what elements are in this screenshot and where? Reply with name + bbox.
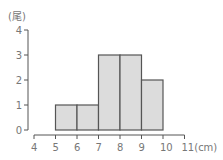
x-tick-label: 5: [53, 142, 59, 153]
histogram-bar: [56, 105, 78, 130]
x-tick-label: 7: [96, 142, 102, 153]
histogram-bar: [77, 105, 99, 130]
histogram-bar: [120, 55, 142, 130]
x-tick-label: 11(cm): [182, 142, 218, 153]
x-tick-label: 10: [160, 142, 173, 153]
x-axis: 4567891011(cm): [31, 135, 217, 153]
y-axis-unit-label: (尾): [8, 11, 26, 22]
histogram-bars: [56, 55, 164, 130]
histogram-bar: [142, 80, 164, 130]
y-tick-label: 4: [16, 25, 22, 36]
y-tick-label: 2: [16, 75, 22, 86]
x-tick-label: 9: [139, 142, 145, 153]
x-tick-label: 8: [117, 142, 123, 153]
histogram-bar: [99, 55, 121, 130]
x-tick-label: 6: [74, 142, 80, 153]
x-tick-label: 4: [31, 142, 37, 153]
y-tick-label: 1: [16, 100, 22, 111]
y-axis: 01234: [16, 25, 28, 136]
y-tick-label: 0: [16, 125, 22, 136]
histogram-chart: (尾) 01234 4567891011(cm): [0, 0, 223, 160]
y-tick-label: 3: [16, 50, 22, 61]
